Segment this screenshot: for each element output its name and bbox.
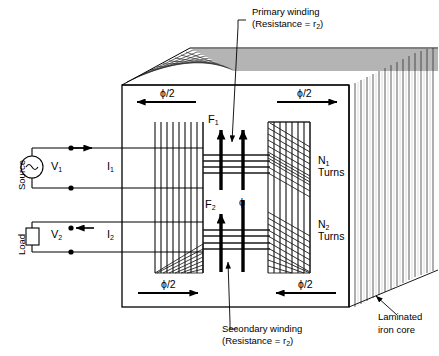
- secondary-turns-symbol: N: [318, 218, 326, 230]
- source-node-top: [68, 145, 73, 150]
- callout-secondary-res-post: ): [290, 335, 293, 346]
- source-label: Source: [16, 160, 27, 190]
- resistor-icon: [26, 228, 39, 245]
- flux-half-label-bottom-right: ϕ/2: [298, 279, 313, 290]
- load-node-bottom: [68, 249, 73, 254]
- core-front-face: [122, 85, 349, 307]
- primary-current-label: I1: [107, 161, 114, 175]
- lamination-stack-top: [122, 48, 438, 85]
- callout-secondary-line2: (Resistance = r2): [222, 335, 293, 349]
- flux-half-label-top-right: ϕ/2: [297, 88, 312, 99]
- load-voltage-label: V2: [51, 229, 62, 243]
- mmf-f2-symbol: F: [205, 198, 212, 210]
- flux-phi-label: ϕ: [239, 197, 245, 208]
- mmf-f2-label: F2: [205, 199, 216, 213]
- primary-winding-conductors: [203, 155, 270, 173]
- mmf-f1-label: F1: [208, 114, 219, 128]
- secondary-current-index: 2: [110, 234, 114, 241]
- mmf-f2-index: 2: [212, 204, 216, 211]
- primary-turns-word: Turns: [318, 167, 344, 178]
- callout-primary-res-post: ): [320, 18, 323, 29]
- transformer-diagram: Primary winding (Resistance = r2) Second…: [0, 0, 439, 356]
- callout-primary-line1: Primary winding: [252, 6, 320, 17]
- callout-secondary-line1: Secondary winding: [222, 323, 302, 334]
- left-winding-bars: [155, 122, 203, 273]
- mmf-f1-index: 1: [215, 119, 219, 126]
- source-node-bottom: [68, 185, 73, 190]
- callout-core-line2: iron core: [378, 324, 415, 335]
- callout-primary-line2: (Resistance = r2): [252, 18, 323, 32]
- callout-core-line1: Laminated: [378, 311, 422, 322]
- callout-primary-res-pre: (Resistance = r: [252, 18, 316, 29]
- secondary-turns-word: Turns: [318, 231, 344, 242]
- source-voltage-index: 1: [58, 166, 62, 173]
- lamination-stack-right: [349, 48, 438, 307]
- flux-half-label-bottom-left: ϕ/2: [161, 279, 176, 290]
- diagram-canvas: [0, 0, 439, 356]
- primary-turns-symbol: N: [318, 154, 326, 166]
- mmf-f1-symbol: F: [208, 113, 215, 125]
- flux-half-label-top-left: ϕ/2: [160, 88, 175, 99]
- load-label: Load: [16, 234, 27, 255]
- primary-current-index: 1: [110, 166, 114, 173]
- load-voltage-index: 2: [58, 234, 62, 241]
- secondary-current-label: I2: [107, 229, 114, 243]
- load-node-top: [68, 225, 73, 230]
- callout-secondary-res-pre: (Resistance = r: [222, 335, 286, 346]
- callout-leader-secondary: [228, 262, 238, 329]
- source-voltage-label: V1: [51, 161, 62, 175]
- secondary-winding-conductors: [203, 230, 270, 249]
